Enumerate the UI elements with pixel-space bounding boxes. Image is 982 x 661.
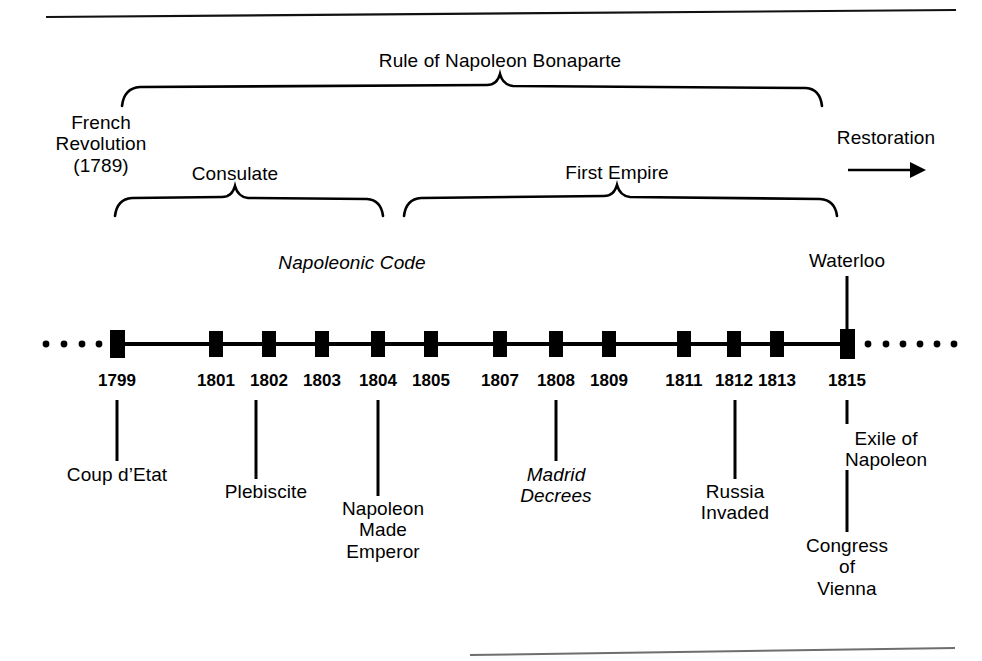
label-french-revolution: French Revolution (1789)	[56, 112, 147, 176]
event-label-madrid-decrees: Madrid Decrees	[520, 464, 591, 507]
timeline-figure: Rule of Napoleon Bonaparte Consulate Fir…	[0, 0, 982, 661]
year-label-1812: 1812	[715, 371, 753, 390]
era-label-first-empire: First Empire	[565, 162, 669, 183]
label-napoleonic-code: Napoleonic Code	[278, 252, 425, 273]
event-label-napoleon-made-emperor: Napoleon Made Emperor	[342, 498, 424, 562]
label-restoration: Restoration	[837, 127, 935, 148]
year-marker-1799	[110, 330, 125, 358]
top-rule	[46, 10, 956, 17]
year-marker-1813	[770, 331, 784, 357]
event-label-congress-of-vienna: Congress of Vienna	[806, 535, 888, 599]
year-marker-1805	[424, 331, 438, 357]
bracket-rule-of-napoleon	[122, 74, 822, 106]
year-label-1811: 1811	[665, 371, 702, 390]
year-markers	[110, 329, 855, 359]
year-marker-1808	[549, 331, 563, 357]
year-marker-1812	[727, 331, 741, 357]
year-label-1808: 1808	[537, 371, 575, 390]
year-marker-1815	[840, 329, 855, 359]
year-marker-1802	[262, 331, 276, 357]
era-label-rule-of-napoleon: Rule of Napoleon Bonaparte	[379, 50, 621, 71]
year-label-1805: 1805	[412, 371, 450, 390]
label-waterloo: Waterloo	[809, 250, 885, 271]
year-label-1809: 1809	[590, 371, 628, 390]
year-marker-1801	[209, 331, 223, 357]
era-label-consulate: Consulate	[192, 163, 278, 184]
year-marker-1809	[602, 331, 616, 357]
event-label-exile-of-napoleon: Exile of Napoleon	[845, 428, 927, 471]
event-label-coup-detat: Coup d’Etat	[67, 464, 167, 485]
year-marker-1803	[315, 331, 329, 357]
year-marker-1804	[371, 331, 385, 357]
event-label-plebiscite: Plebiscite	[225, 481, 307, 502]
restoration-arrow-icon	[848, 162, 926, 178]
event-label-russia-invaded: Russia Invaded	[701, 481, 769, 524]
year-label-1807: 1807	[481, 371, 519, 390]
year-label-1815: 1815	[828, 371, 866, 390]
bracket-consulate	[115, 186, 383, 216]
year-label-1802: 1802	[250, 371, 288, 390]
year-label-1801: 1801	[197, 371, 235, 390]
year-label-1813: 1813	[758, 371, 796, 390]
year-label-1803: 1803	[303, 371, 341, 390]
year-marker-1811	[677, 331, 691, 357]
bracket-first-empire	[404, 185, 837, 216]
year-marker-1807	[493, 331, 507, 357]
year-label-1804: 1804	[359, 371, 397, 390]
bottom-rule	[470, 648, 955, 655]
axis-trailing-dots	[865, 341, 958, 348]
year-label-1799: 1799	[98, 371, 136, 390]
axis-leading-dots	[43, 341, 103, 348]
